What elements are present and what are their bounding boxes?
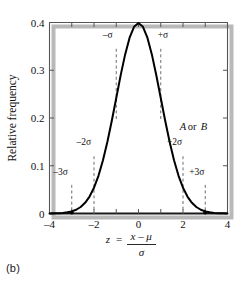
x-axis-label-numerator-minus: –: [137, 230, 144, 242]
x-axis-label-equals: =: [116, 233, 122, 245]
figure-caption: (b): [6, 262, 20, 274]
y-tick-label: 0.1: [31, 160, 45, 172]
x-tick-label: –2: [88, 218, 100, 230]
x-axis-label: z = x – μ σ: [105, 230, 156, 258]
x-axis-label-numerator-x: x: [130, 230, 136, 242]
sigma-label: –σ: [102, 30, 113, 40]
y-tick-label: 0.2: [31, 112, 45, 124]
annotation-label-a: A: [179, 121, 187, 132]
x-axis-ticks: [50, 23, 228, 214]
sigma-label: –3σ: [52, 167, 68, 177]
y-tick-label: 0.4: [31, 17, 45, 29]
sigma-label: +3σ: [189, 167, 204, 177]
y-axis-label: Relative frequency: [6, 74, 19, 161]
x-axis-label-z: z: [105, 233, 111, 245]
normal-curve: [50, 23, 228, 213]
y-axis-tick-labels: 00.10.20.30.4: [31, 17, 45, 220]
annotation-label-b: B: [201, 121, 208, 132]
sigma-label: +2σ: [167, 137, 182, 147]
sigma-label: +σ: [158, 30, 168, 40]
x-tick-label: 0: [136, 218, 142, 230]
plot-svg: Relative frequency –4–2024 00.10.20.30.4…: [0, 0, 241, 287]
x-axis-label-numerator-mu: μ: [145, 230, 152, 242]
plot-frame: [50, 23, 228, 214]
annotation-label-or: or: [188, 121, 197, 132]
y-axis-ticks: [50, 23, 228, 214]
x-tick-label: 2: [180, 218, 186, 230]
sigma-label: –2σ: [75, 137, 91, 147]
y-tick-label: 0.3: [31, 64, 45, 76]
a-or-b-annotation: A or B: [179, 121, 208, 132]
x-tick-label: –4: [43, 218, 56, 230]
x-axis-label-denominator: σ: [139, 246, 145, 258]
y-tick-label: 0: [39, 208, 45, 220]
normal-distribution-figure: Relative frequency –4–2024 00.10.20.30.4…: [0, 0, 241, 287]
x-tick-label: 4: [225, 218, 231, 230]
sigma-annotations: –σ+σ–2σ+2σ–3σ+3σ: [52, 30, 204, 177]
